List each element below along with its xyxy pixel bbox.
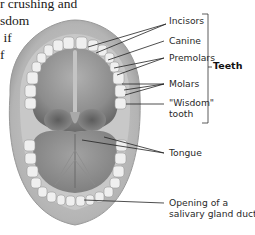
label-wisdom-line1: "Wisdom": [169, 97, 214, 108]
label-premolars: Premolars: [169, 52, 215, 63]
label-salivary-line1: Opening of a: [169, 197, 255, 208]
label-tongue: Tongue: [169, 147, 202, 158]
label-incisors: Incisors: [169, 15, 204, 26]
label-wisdom-tooth: "Wisdom" tooth: [169, 97, 214, 119]
label-salivary-line2: salivary gland duct: [169, 208, 255, 219]
group-label-teeth: Teeth: [213, 60, 242, 71]
label-salivary-duct: Opening of a salivary gland duct: [169, 197, 255, 219]
label-molars: Molars: [169, 78, 199, 89]
label-wisdom-line2: tooth: [169, 108, 214, 119]
label-canine: Canine: [169, 35, 201, 46]
